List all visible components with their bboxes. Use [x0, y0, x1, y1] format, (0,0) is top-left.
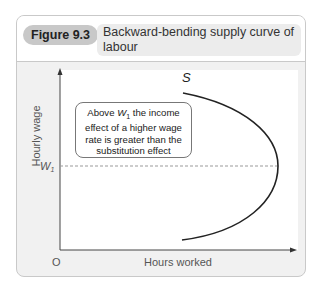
annotation-line-1: Above W1 the income: [76, 107, 191, 122]
plot-area: [60, 70, 298, 250]
y-axis-label: Hourly wage: [30, 105, 42, 166]
curve-label-s: S: [182, 70, 191, 85]
w1-label: W1: [40, 160, 54, 173]
annotation-line-3: rate is greater than the: [76, 134, 191, 146]
annotation-line-4: substitution effect: [76, 145, 191, 157]
x-axis-label: Hours worked: [144, 256, 212, 268]
origin-label: O: [52, 256, 61, 268]
annotation-box: Above W1 the income effect of a higher w…: [75, 102, 192, 158]
annotation-line-2: effect of a higher wage: [76, 122, 191, 134]
